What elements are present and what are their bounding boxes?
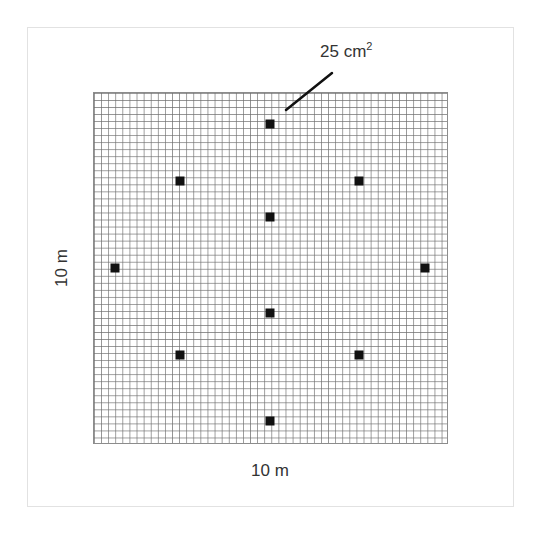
sampling-grid [93,92,448,444]
sample-quadrat-marker-center-lower [266,309,275,318]
sample-quadrat-marker-right [421,264,430,273]
sample-quadrat-marker-top [266,120,275,129]
quadrat-size-label: 25 cm2 [320,42,372,62]
sample-quadrat-marker-upper-right [355,177,364,186]
height-label: 10 m [52,249,72,287]
sample-quadrat-marker-lower-left [176,351,185,360]
sample-quadrat-marker-center-upper [266,213,275,222]
width-label: 10 m [251,461,289,481]
quadrat-size-exponent: 2 [366,40,372,52]
sample-quadrat-marker-lower-right [355,351,364,360]
sample-quadrat-marker-upper-left [176,177,185,186]
sample-quadrat-marker-bottom [266,417,275,426]
quadrat-size-value: 25 cm [320,42,366,61]
sample-quadrat-marker-left [111,264,120,273]
